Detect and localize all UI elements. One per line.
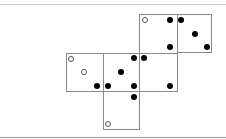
filled-pip-icon xyxy=(204,44,210,50)
filled-pip-icon xyxy=(192,31,198,37)
open-pip-icon xyxy=(142,17,148,23)
filled-pip-icon xyxy=(167,44,173,50)
filled-pip-icon xyxy=(131,94,137,100)
filled-pip-icon xyxy=(141,55,147,61)
filled-pip-icon xyxy=(178,17,184,23)
open-pip-icon xyxy=(105,121,111,127)
filled-pip-icon xyxy=(131,83,137,89)
filled-pip-icon xyxy=(94,83,100,89)
bottom-rule xyxy=(0,137,226,138)
filled-pip-icon xyxy=(167,83,173,89)
filled-pip-icon xyxy=(167,17,173,23)
top-rule xyxy=(0,4,226,5)
filled-pip-icon xyxy=(105,83,111,89)
open-pip-icon xyxy=(68,56,74,62)
filled-pip-icon xyxy=(118,69,124,75)
open-pip-icon xyxy=(81,69,87,75)
filled-pip-icon xyxy=(131,55,137,61)
